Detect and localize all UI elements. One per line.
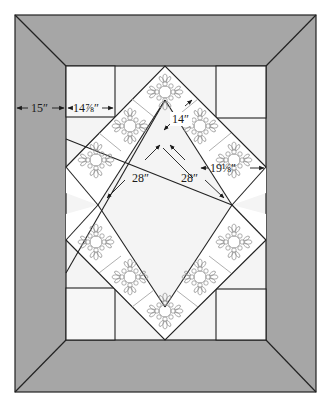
label-border-width: 15″	[31, 101, 48, 115]
label-side-gap: 19⅛″	[210, 161, 236, 175]
label-inner-right: 28″	[181, 171, 198, 185]
label-block-size: 14″	[172, 112, 189, 126]
quilt-diagram: 15″ 14⅞″ 14″ 28″ 28″ 19⅛″	[0, 0, 328, 405]
label-inner-left: 28″	[132, 171, 149, 185]
label-corner-square: 14⅞″	[73, 101, 99, 115]
